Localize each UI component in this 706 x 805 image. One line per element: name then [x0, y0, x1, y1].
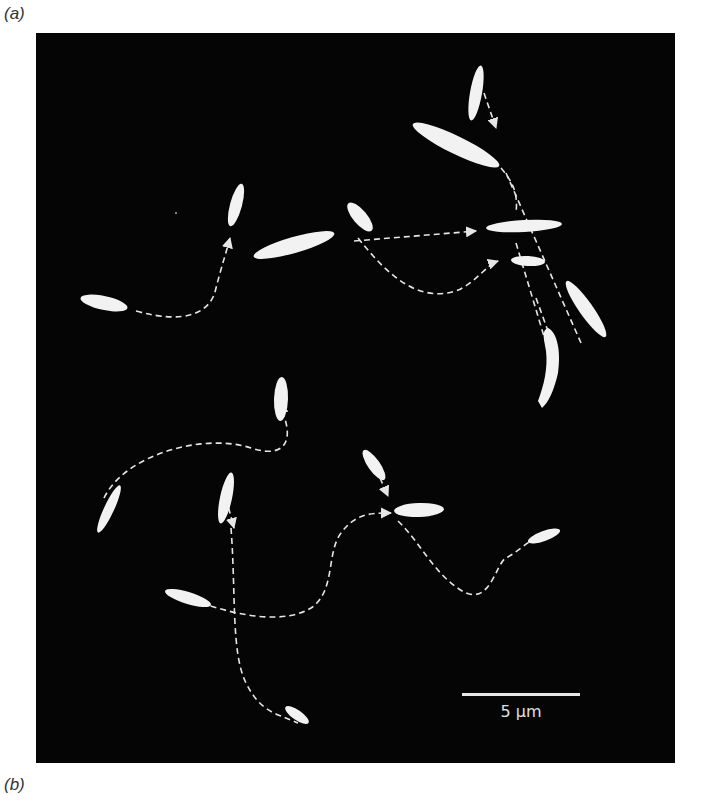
swim-tracks [104, 93, 581, 723]
micrograph-panel: 5 μm [36, 33, 675, 763]
panel-label-b: (b) [4, 775, 25, 795]
bacteria-tracks-overlay [36, 33, 675, 763]
scale-bar-label: 5 μm [462, 702, 580, 721]
panel-label-a: (a) [4, 4, 25, 24]
bacterial-cells [79, 64, 611, 727]
scale-bar [462, 693, 580, 696]
